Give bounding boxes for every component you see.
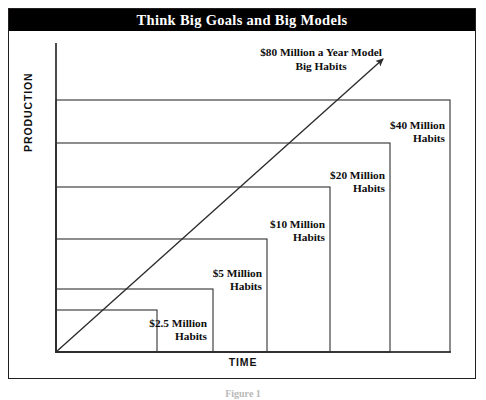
tier-label-80m-line1: $80 Million a Year Model	[260, 46, 382, 58]
tier-label-5m-line1: $5 Million	[213, 267, 262, 279]
tier-label-10m-line1: $10 Million	[270, 218, 325, 230]
tier-label-40m: $40 Million Habits	[300, 119, 445, 146]
x-axis-title: TIME	[0, 356, 486, 368]
tier-label-20m-line1: $20 Million	[330, 169, 385, 181]
tier-label-2-5m-line2: Habits	[70, 330, 207, 343]
tier-label-5m: $5 Million Habits	[125, 267, 262, 294]
chart-axes	[55, 43, 451, 353]
tier-label-80m: $80 Million a Year Model Big Habits	[205, 46, 437, 73]
tier-label-5m-line2: Habits	[125, 280, 262, 293]
tier-label-80m-line2: Big Habits	[205, 60, 437, 74]
tier-label-40m-line2: Habits	[300, 132, 445, 145]
tier-label-10m-line2: Habits	[180, 231, 325, 244]
y-axis-title: PRODUCTION	[22, 72, 34, 152]
tier-label-2-5m-line1: $2.5 Million	[149, 317, 207, 329]
tier-label-20m: $20 Million Habits	[240, 169, 385, 196]
figure-screenshot: Think Big Goals and Big Models	[0, 0, 486, 400]
growth-arrow	[56, 59, 383, 352]
tier-label-10m: $10 Million Habits	[180, 218, 325, 245]
tier-label-40m-line1: $40 Million	[390, 119, 445, 131]
tier-label-20m-line2: Habits	[240, 182, 385, 195]
tier-label-2-5m: $2.5 Million Habits	[70, 317, 207, 344]
figure-caption: Figure 1	[0, 388, 486, 400]
